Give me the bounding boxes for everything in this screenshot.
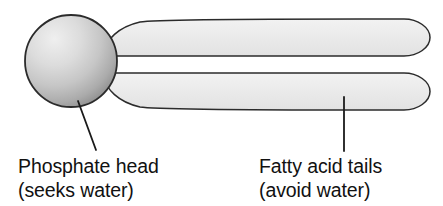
fatty-acid-tail-lower — [104, 73, 430, 110]
phosphate-head-circle — [25, 15, 117, 107]
fatty-acid-tails-label-line1: Fatty acid tails — [259, 155, 382, 177]
fatty-acid-tails-label-line2: (avoid water) — [259, 179, 370, 201]
fatty-acid-tails-label: Fatty acid tails (avoid water) — [259, 155, 382, 201]
phospholipid-diagram: Phosphate head (seeks water) Fatty acid … — [0, 0, 443, 206]
phospholipid-diagram-canvas: Phosphate head (seeks water) Fatty acid … — [0, 0, 443, 206]
phosphate-head-label-line2: (seeks water) — [18, 179, 134, 201]
leader-line-phosphate-head — [78, 101, 96, 150]
phosphate-head-label: Phosphate head (seeks water) — [18, 155, 159, 201]
phosphate-head-label-line1: Phosphate head — [18, 155, 159, 177]
fatty-acid-tail-upper — [104, 19, 430, 56]
